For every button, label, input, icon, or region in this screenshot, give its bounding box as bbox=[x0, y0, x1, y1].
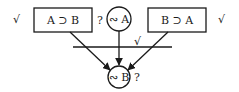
argument-diagram: √ A ⊃ B ? ∾ A B ⊃ A √ √ ∾ B ? bbox=[0, 0, 239, 92]
check-icon-left: √ bbox=[13, 13, 21, 26]
check-icon-inference: √ bbox=[134, 35, 142, 48]
node-left-box[interactable]: A ⊃ B bbox=[34, 8, 92, 32]
bottom-circle-label: ∾ B bbox=[109, 71, 130, 84]
check-icon-right: √ bbox=[218, 13, 226, 26]
question-mark-left-box: ? bbox=[97, 14, 103, 27]
node-right-box[interactable]: B ⊃ A bbox=[148, 8, 206, 32]
node-top-circle[interactable]: ∾ A bbox=[107, 7, 131, 31]
edge-left-to-bottom bbox=[70, 32, 110, 70]
top-circle-label: ∾ A bbox=[109, 13, 130, 26]
question-mark-bottom: ? bbox=[134, 71, 140, 84]
left-box-label: A ⊃ B bbox=[46, 14, 79, 27]
right-box-label: B ⊃ A bbox=[161, 14, 194, 27]
node-bottom-circle[interactable]: ∾ B bbox=[108, 66, 130, 88]
